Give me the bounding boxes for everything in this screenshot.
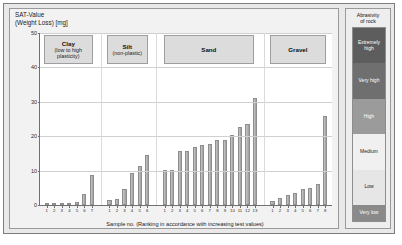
legend-item: Very high xyxy=(353,63,385,98)
x-axis-title: Sample no. (Ranking in accordance with i… xyxy=(39,221,331,227)
x-tick-label: 4 xyxy=(131,208,133,213)
x-tick-label: 5 xyxy=(138,208,140,213)
group-header-clay: Clay(low to high plasticity) xyxy=(44,35,92,64)
x-tick-label: 8 xyxy=(324,208,326,213)
x-tick-label: 3 xyxy=(179,208,181,213)
x-tick-label: 3 xyxy=(123,208,125,213)
bar xyxy=(138,166,142,205)
y-gridline xyxy=(40,171,332,172)
x-tick-label: 4 xyxy=(68,208,70,213)
bar xyxy=(223,140,227,205)
x-tick-label: 7 xyxy=(91,208,93,213)
bar xyxy=(286,195,290,205)
group-header-name: Sand xyxy=(201,46,216,53)
y-tick-label: 50 xyxy=(31,30,37,36)
bar xyxy=(90,175,94,205)
legend-item: High xyxy=(353,99,385,134)
y-gridline xyxy=(40,33,332,34)
x-tick-label: 13 xyxy=(253,208,258,213)
y-gridline xyxy=(40,67,332,68)
x-tick-label: 3 xyxy=(286,208,288,213)
x-tick-label: 4 xyxy=(186,208,188,213)
group-separator xyxy=(101,33,102,205)
legend-title: Abrasivity of rock xyxy=(346,12,390,24)
group-header-subtitle: (non-plastic) xyxy=(112,50,142,56)
x-tick-label: 2 xyxy=(53,208,55,213)
group-header-name: Silt xyxy=(122,43,132,50)
x-tick-label: 11 xyxy=(238,208,242,213)
x-tick-label: 5 xyxy=(194,208,196,213)
bar xyxy=(308,188,312,205)
x-tick-label: 10 xyxy=(230,208,235,213)
x-tick-label: 1 xyxy=(271,208,273,213)
bar xyxy=(145,155,149,205)
x-tick-label: 7 xyxy=(317,208,319,213)
y-tick-mark xyxy=(38,102,41,103)
x-tick-label: 8 xyxy=(216,208,218,213)
x-tick-label: 6 xyxy=(309,208,311,213)
bar xyxy=(215,140,219,205)
group-separator xyxy=(264,33,265,205)
y-tick-label: 30 xyxy=(31,99,37,105)
x-tick-label: 6 xyxy=(201,208,203,213)
x-tick-label: 1 xyxy=(108,208,110,213)
group-header-gravel: Gravel xyxy=(270,35,325,64)
chart-figure: SAT-Value (Weight Loss) [mg] 01020304050… xyxy=(3,3,395,234)
bar xyxy=(323,116,327,205)
group-header-name: Gravel xyxy=(288,46,307,53)
legend-panel: Abrasivity of rock Extremely highVery hi… xyxy=(345,8,391,229)
legend-item-label: Extremely high xyxy=(358,40,380,52)
x-tick-label: 9 xyxy=(224,208,226,213)
bar xyxy=(82,194,86,205)
y-gridline xyxy=(40,136,332,137)
group-header-sand: Sand xyxy=(164,35,254,64)
bar xyxy=(170,170,174,205)
group-header-silt: Silt(non-plastic) xyxy=(107,35,149,64)
legend-item-label: Low xyxy=(364,184,373,190)
legend-item: Medium xyxy=(353,134,385,169)
y-tick-label: 40 xyxy=(31,64,37,70)
bar xyxy=(185,151,189,205)
bar xyxy=(253,98,257,205)
bar xyxy=(122,189,126,206)
legend-item: Very low xyxy=(353,205,385,221)
legend-item: Extremely high xyxy=(353,28,385,63)
bar xyxy=(208,144,212,205)
y-tick-mark xyxy=(38,136,41,137)
x-tick-label: 4 xyxy=(294,208,296,213)
x-tick-label: 1 xyxy=(46,208,48,213)
y-tick-label: 0 xyxy=(34,202,37,208)
y-tick-label: 20 xyxy=(31,133,37,139)
x-tick-label: 2 xyxy=(279,208,281,213)
bar xyxy=(301,189,305,205)
x-tick-label: 6 xyxy=(83,208,85,213)
bar xyxy=(316,184,320,205)
legend-item: Low xyxy=(353,170,385,205)
x-tick-label: 2 xyxy=(116,208,118,213)
y-tick-label: 10 xyxy=(31,168,37,174)
y-tick-mark xyxy=(38,171,41,172)
plot-panel: SAT-Value (Weight Loss) [mg] 01020304050… xyxy=(9,8,339,229)
bar xyxy=(178,151,182,205)
x-tick-label: 5 xyxy=(301,208,303,213)
x-tick-label: 1 xyxy=(163,208,165,213)
x-tick-label: 6 xyxy=(146,208,148,213)
bar xyxy=(130,173,134,205)
bar xyxy=(163,170,167,205)
bar xyxy=(200,145,204,205)
bar xyxy=(278,198,282,205)
legend-item-label: Very high xyxy=(359,78,380,84)
x-tick-label: 12 xyxy=(245,208,250,213)
group-separator xyxy=(156,33,157,205)
bar xyxy=(193,147,197,205)
x-tick-label: 5 xyxy=(76,208,78,213)
chart-title: SAT-Value (Weight Loss) [mg] xyxy=(15,11,68,26)
legend-scale: Extremely highVery highHighMediumLowVery… xyxy=(352,27,386,222)
group-header-subtitle: (low to high plasticity) xyxy=(55,47,83,60)
legend-item-label: High xyxy=(364,114,374,120)
y-tick-mark xyxy=(38,67,41,68)
legend-item-label: Medium xyxy=(360,149,378,155)
x-tick-label: 3 xyxy=(61,208,63,213)
x-tick-label: 7 xyxy=(209,208,211,213)
bar xyxy=(293,193,297,205)
